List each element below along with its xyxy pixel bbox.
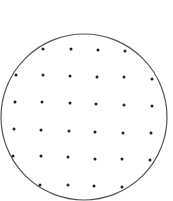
grid-dot <box>95 103 98 106</box>
grid-dot <box>121 186 124 189</box>
grid-dot <box>41 101 44 104</box>
boundary-circle <box>1 34 167 200</box>
grid-dot <box>151 78 154 81</box>
grid-dot <box>14 101 17 104</box>
grid-dot <box>40 155 43 158</box>
grid-dot <box>68 130 71 133</box>
grid-dot <box>150 132 153 135</box>
grid-dot <box>69 102 72 105</box>
grid-dot <box>123 104 126 107</box>
grid-dot <box>121 158 124 161</box>
grid-dot <box>12 155 15 158</box>
grid-dot <box>149 159 152 162</box>
grid-dot <box>39 184 42 187</box>
grid-dot <box>42 74 45 77</box>
grid-dot <box>96 76 99 79</box>
grid-dot <box>124 50 127 53</box>
grid-dot <box>67 156 70 159</box>
grid-dot <box>70 48 73 51</box>
grid-dot <box>67 184 70 187</box>
grid-dot <box>151 105 154 108</box>
dot-grid <box>12 48 154 189</box>
grid-dot <box>94 158 97 161</box>
grid-dot <box>93 185 96 188</box>
grid-dot <box>40 129 43 132</box>
dot-grid-diagram <box>0 0 173 201</box>
grid-dot <box>69 75 72 78</box>
grid-dot <box>42 48 45 51</box>
grid-dot <box>15 74 18 77</box>
grid-dot <box>13 128 16 131</box>
grid-dot <box>97 49 100 52</box>
grid-dot <box>122 132 125 135</box>
grid-dot <box>94 131 97 134</box>
grid-dot <box>123 76 126 79</box>
